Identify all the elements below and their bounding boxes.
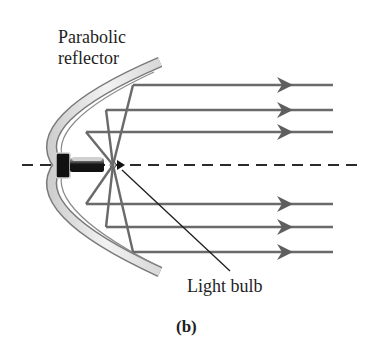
parabolic-reflector-diagram bbox=[0, 0, 375, 364]
light-bulb-label: Light bulb bbox=[187, 277, 263, 295]
reflector-label-line2: reflector bbox=[58, 48, 126, 69]
reflector-label-line1: Parabolic bbox=[58, 27, 126, 48]
ray-arrowheads bbox=[277, 77, 293, 260]
bulb-tip-icon bbox=[117, 160, 125, 170]
panel-label: (b) bbox=[176, 318, 197, 335]
light-rays bbox=[86, 85, 333, 252]
reflector-label: Parabolic reflector bbox=[58, 27, 126, 69]
bulb-neck-highlight bbox=[72, 157, 102, 161]
bulb-socket bbox=[56, 153, 70, 178]
incident-ray-1 bbox=[113, 85, 133, 165]
